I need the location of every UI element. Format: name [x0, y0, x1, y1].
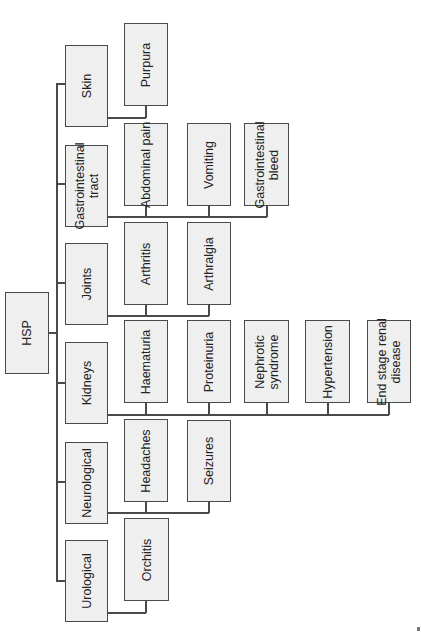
- node-hsp-label: HSP: [20, 320, 34, 346]
- node-nephrotic-label-line2: syndrome: [267, 334, 281, 389]
- node-joints: Joints: [65, 243, 108, 325]
- connector-skin: [56, 83, 65, 85]
- node-purpura: Purpura: [124, 23, 168, 106]
- node-skin: Skin: [65, 45, 108, 127]
- node-arthritis-label: Arthritis: [139, 242, 153, 284]
- connector-joints: [56, 282, 65, 284]
- node-abdominal-pain-label: Abdominal pain: [139, 121, 153, 207]
- node-neuro-label: Neurological: [80, 448, 94, 517]
- node-kidneys-label: Kidneys: [80, 361, 94, 405]
- connector-headaches: [145, 501, 147, 513]
- node-esrd-label-line1: End stage renal: [375, 318, 389, 406]
- connector-kidneys-children: [108, 414, 389, 416]
- connector-kidneys: [56, 382, 65, 384]
- connector-joints-children: [108, 315, 209, 317]
- node-haematuria: Haematuria: [124, 320, 168, 403]
- node-orchitis-label: Orchitis: [140, 538, 154, 580]
- node-haematuria-label: Haematuria: [139, 329, 153, 394]
- node-purpura-label: Purpura: [139, 42, 153, 86]
- node-gi-label-line1: Gastrointestinal: [73, 143, 87, 230]
- node-gastrointestinal-bleed: Gastrointestinal bleed: [244, 123, 289, 206]
- connector-gi: [56, 183, 65, 185]
- node-hsp: HSP: [5, 292, 49, 374]
- node-arthritis: Arthritis: [124, 222, 168, 305]
- node-hypertension: Hypertension: [305, 320, 350, 403]
- node-hypertension-label: Hypertension: [321, 325, 335, 399]
- node-gi-bleed-label-line2: bleed: [267, 121, 281, 208]
- node-nephrotic-label: Nephrotic syndrome: [253, 334, 281, 389]
- node-abdominal-pain: Abdominal pain: [124, 123, 168, 206]
- node-arthralgia-label: Arthralgia: [202, 237, 216, 291]
- connector-neuro: [56, 481, 65, 483]
- connector-hypertension: [327, 402, 329, 415]
- connector-seizures: [208, 501, 210, 513]
- node-end-stage-renal-disease: End stage renal disease: [367, 320, 411, 403]
- corner-mark: [417, 627, 420, 631]
- node-nephrotic-label-line1: Nephrotic: [253, 334, 267, 389]
- node-arthralgia: Arthralgia: [187, 222, 231, 305]
- node-esrd-label-line2: disease: [389, 318, 403, 406]
- connector-skin-children: [108, 117, 146, 119]
- node-joints-label: Joints: [80, 268, 94, 301]
- connector-purpura: [145, 105, 147, 118]
- node-vomiting: Vomiting: [187, 123, 231, 206]
- node-gi-bleed-label-line1: Gastrointestinal: [253, 121, 267, 208]
- node-skin-label: Skin: [80, 74, 94, 98]
- connector-orchitis: [145, 600, 147, 613]
- node-urological: Urological: [65, 540, 108, 622]
- node-seizures: Seizures: [187, 420, 231, 502]
- node-headaches-label: Headaches: [139, 429, 153, 492]
- connector-uro: [56, 580, 65, 582]
- node-seizures-label: Seizures: [202, 437, 216, 486]
- connector-proteinuria: [208, 402, 210, 415]
- node-proteinuria: Proteinuria: [187, 320, 231, 403]
- node-nephrotic-syndrome: Nephrotic syndrome: [244, 320, 289, 403]
- node-headaches: Headaches: [124, 419, 168, 502]
- connector-haematuria: [145, 402, 147, 415]
- connector-nephrotic: [266, 402, 268, 415]
- connector-neuro-children: [108, 512, 209, 514]
- connector-arthralgia: [208, 304, 210, 316]
- node-esrd-label: End stage renal disease: [375, 318, 403, 406]
- connector-trunk: [56, 83, 58, 581]
- node-gi-label-line2: tract: [87, 143, 101, 230]
- node-kidneys: Kidneys: [65, 342, 108, 424]
- node-orchitis: Orchitis: [124, 518, 169, 601]
- connector-gi-children: [108, 216, 267, 218]
- node-gi-label: Gastrointestinal tract: [73, 143, 101, 230]
- node-vomiting-label: Vomiting: [202, 141, 216, 189]
- node-gastrointestinal-tract: Gastrointestinal tract: [65, 145, 108, 227]
- node-proteinuria-label: Proteinuria: [202, 331, 216, 391]
- node-uro-label: Urological: [80, 553, 94, 609]
- connector-arthritis: [145, 304, 147, 316]
- node-gi-bleed-label: Gastrointestinal bleed: [253, 121, 281, 208]
- connector-vomiting: [208, 205, 210, 217]
- node-neurological: Neurological: [65, 442, 108, 524]
- connector-uro-children: [108, 612, 146, 614]
